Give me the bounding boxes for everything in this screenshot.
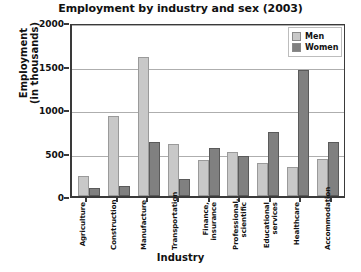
y-axis-tick-label: 500	[30, 150, 64, 160]
legend-label-women: Women	[305, 43, 339, 52]
x-axis-category-label: Educational services	[264, 202, 276, 250]
bar-group	[253, 25, 283, 196]
bar-men	[168, 144, 179, 196]
bar-group	[223, 25, 253, 196]
y-axis-tick-mark	[64, 154, 69, 156]
legend: Men Women	[288, 27, 342, 57]
chart-title: Employment by industry and sex (2003)	[0, 2, 361, 15]
legend-item-men: Men	[292, 32, 338, 41]
bar-men	[227, 152, 238, 196]
y-axis-tick-label: 2000	[30, 19, 64, 29]
x-axis-category-label: Finance, insurance	[203, 202, 215, 250]
legend-label-men: Men	[305, 32, 324, 41]
bar-chart-figure: Employment by industry and sex (2003) Em…	[0, 0, 361, 272]
bar-women	[149, 142, 160, 196]
x-axis-category-label: Accommodation	[325, 202, 337, 250]
x-axis-category-label: Transportation	[172, 202, 184, 250]
bar-group	[194, 25, 224, 196]
y-axis-tick-mark	[64, 197, 69, 199]
x-axis-category-label: Construction	[111, 202, 123, 250]
y-axis-tick-labels: 0500100015002000	[26, 24, 64, 198]
x-axis-category-label: Healthcare	[294, 202, 306, 250]
y-axis-tick-label: 1000	[30, 106, 64, 116]
bar-women	[238, 156, 249, 196]
legend-swatch-men	[292, 32, 301, 41]
bar-men	[198, 160, 209, 196]
bar-women	[209, 148, 220, 196]
bar-men	[138, 57, 149, 196]
y-axis-tick-label: 1500	[30, 63, 64, 73]
x-axis-label: Industry	[0, 252, 361, 263]
bar-men	[287, 167, 298, 196]
bar-group	[164, 25, 194, 196]
y-axis-tick-mark	[64, 23, 69, 25]
y-axis-tick-label: 0	[30, 193, 64, 203]
x-axis-category-labels: AgricultureConstructionManufactureTransp…	[70, 202, 345, 250]
y-axis-tick-mark	[64, 110, 69, 112]
bar-men	[257, 163, 268, 196]
bar-women	[268, 132, 279, 196]
bar-group	[74, 25, 104, 196]
legend-item-women: Women	[292, 43, 338, 52]
bar-women	[179, 179, 190, 196]
bar-men	[78, 176, 89, 196]
bar-women	[89, 188, 100, 196]
bar-group	[104, 25, 134, 196]
y-axis-tick-mark	[64, 67, 69, 69]
bar-women	[119, 186, 130, 196]
x-axis-category-label: Professional, scientific	[233, 202, 245, 250]
x-axis-category-label: Agriculture	[80, 202, 92, 250]
bar-group	[134, 25, 164, 196]
legend-swatch-women	[292, 43, 301, 52]
bar-women	[298, 70, 309, 196]
bar-men	[108, 116, 119, 196]
x-axis-category-label: Manufacture	[141, 202, 153, 250]
